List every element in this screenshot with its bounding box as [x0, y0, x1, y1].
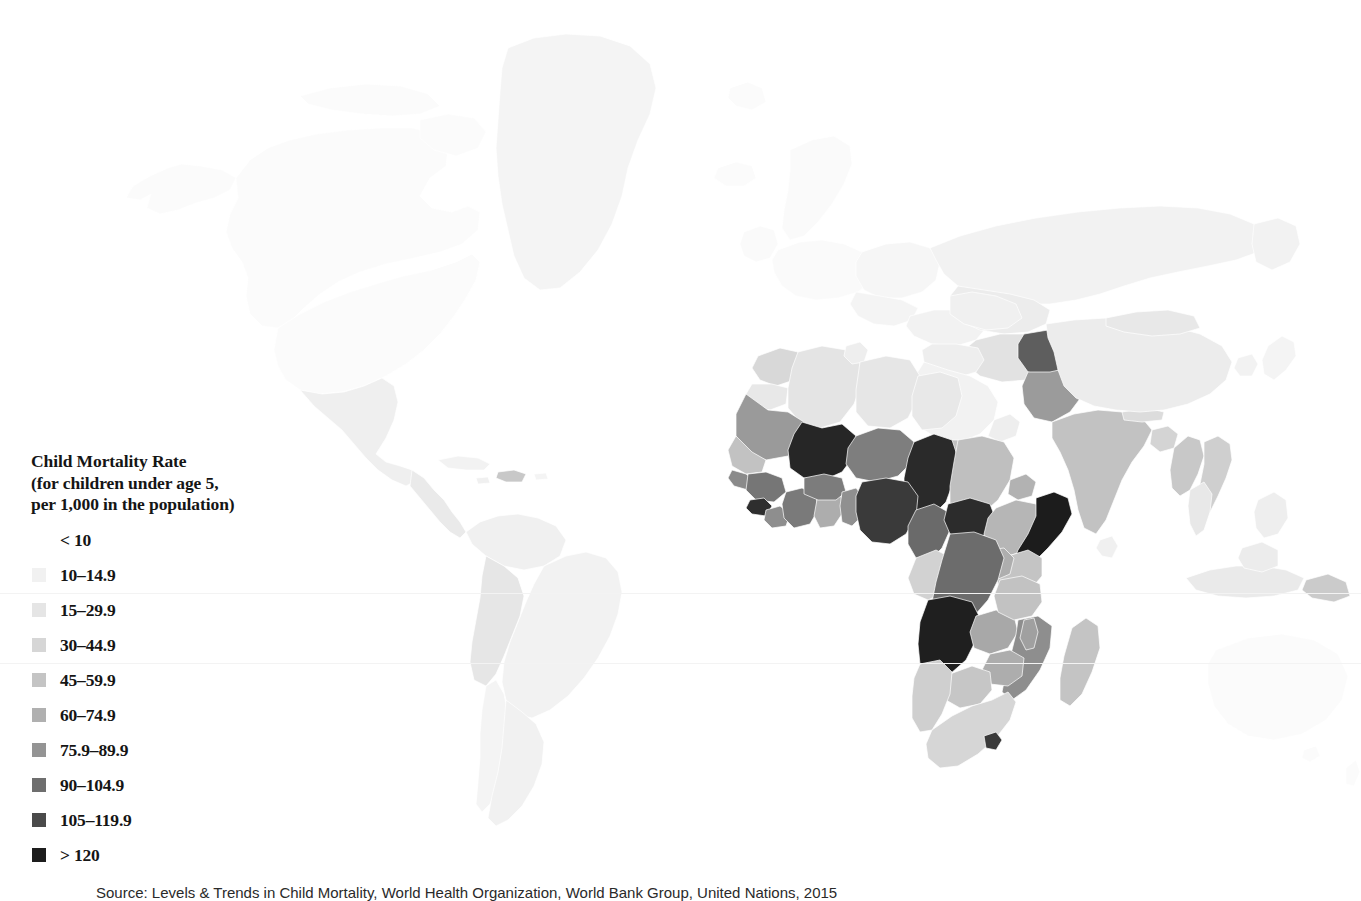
country-japan [1262, 336, 1296, 380]
country-libya [856, 356, 920, 428]
country-hispaniola [496, 470, 526, 482]
legend-swatch [32, 708, 46, 722]
legend-swatch [32, 778, 46, 792]
country-jamaica [476, 477, 490, 484]
region-scandinavia [782, 136, 852, 240]
legend-row[interactable]: 15–29.9 [31, 593, 291, 628]
legend-label: 45–59.9 [60, 671, 115, 689]
legend-swatch [32, 848, 46, 862]
country-australia [1208, 634, 1348, 740]
legend-row[interactable]: 10–14.9 [31, 558, 291, 593]
legend-swatch [32, 603, 46, 617]
country-sri-lanka [1096, 536, 1118, 558]
region-greenland [496, 34, 656, 290]
country-colombia-venezuela [466, 514, 566, 570]
legend-swatch [32, 568, 46, 582]
country-indonesia [1186, 566, 1304, 598]
legend-row[interactable]: 30–44.9 [31, 628, 291, 663]
country-mexico [300, 378, 418, 486]
region-eastern-europe [856, 242, 940, 298]
legend-swatch [32, 638, 46, 652]
region-oceania [1208, 634, 1360, 786]
legend-row[interactable]: 60–74.9 [31, 698, 291, 733]
region-arctic-islands [300, 84, 440, 116]
source-caption: Source: Levels & Trends in Child Mortali… [96, 884, 1296, 901]
country-tasmania [1302, 746, 1320, 762]
legend-swatch [32, 813, 46, 827]
country-puerto-rico [534, 473, 548, 480]
legend-title: Child Mortality Rate (for children under… [31, 451, 291, 516]
legend-row[interactable]: 90–104.9 [31, 768, 291, 803]
region-central-america [410, 470, 466, 538]
legend-row[interactable]: 45–59.9 [31, 663, 291, 698]
country-papua-new-guinea [1302, 574, 1350, 602]
legend-row[interactable]: > 120 [31, 838, 291, 873]
country-madagascar [1060, 618, 1100, 706]
legend-row[interactable]: 105–119.9 [31, 803, 291, 838]
country-guinea [746, 472, 786, 502]
legend-items-list: < 1010–14.915–29.930–44.945–59.960–74.97… [31, 523, 291, 873]
legend-label: < 10 [60, 531, 91, 549]
country-tanzania [994, 576, 1042, 620]
country-brazil [502, 552, 622, 718]
legend-swatch [32, 743, 46, 757]
region-uk-ireland [740, 226, 778, 262]
country-new-zealand [1346, 760, 1360, 786]
country-burkina-faso [804, 474, 846, 500]
country-eritrea-djibouti [1008, 474, 1036, 500]
legend-swatch [32, 533, 46, 547]
legend-label: 60–74.9 [60, 706, 115, 724]
country-thailand [1188, 482, 1212, 536]
country-cuba [438, 456, 490, 470]
legend-swatch [32, 673, 46, 687]
legend-label: 15–29.9 [60, 601, 115, 619]
map-legend: Child Mortality Rate (for children under… [31, 451, 291, 873]
legend-label: 90–104.9 [60, 776, 124, 794]
legend-label: 30–44.9 [60, 636, 115, 654]
region-philippines [1254, 492, 1288, 538]
country-korea [1234, 354, 1258, 376]
legend-label: 105–119.9 [60, 811, 132, 829]
legend-label: 10–14.9 [60, 566, 115, 584]
region-borneo [1238, 542, 1278, 572]
region-kamchatka [1252, 218, 1300, 270]
legend-row[interactable]: < 10 [31, 523, 291, 558]
legend-label: > 120 [60, 846, 100, 864]
country-iceland [714, 162, 756, 186]
region-russia-central-asia [930, 206, 1300, 334]
country-mali [788, 422, 856, 480]
region-south-america [466, 514, 622, 826]
legend-row[interactable]: 75.9–89.9 [31, 733, 291, 768]
region-svalbard [728, 82, 766, 110]
country-alaska [126, 164, 236, 214]
country-niger [846, 428, 914, 482]
legend-label: 75.9–89.9 [60, 741, 128, 759]
